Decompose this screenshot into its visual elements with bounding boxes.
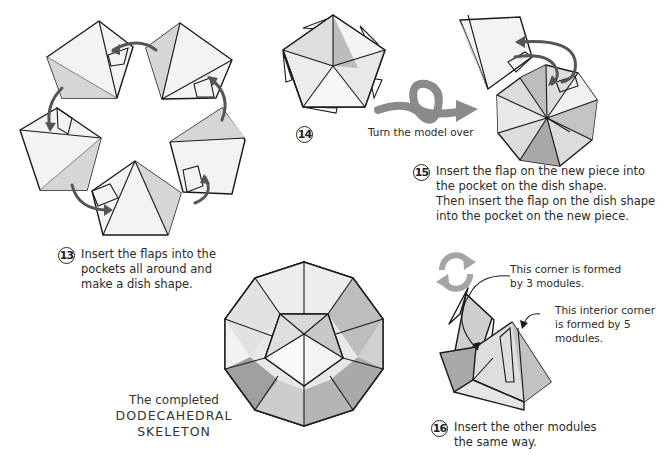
corner-3-note: This corner is formed by 3 modules.: [510, 262, 621, 290]
caption-title: SKELETON: [110, 424, 238, 440]
step15-instruction: 15 Insert the flap on the new piece into…: [413, 164, 655, 224]
step16-module-diagram: [440, 282, 580, 412]
note-line: modules.: [555, 331, 655, 345]
step14-pentagon-diagram: [270, 0, 390, 120]
step-number: 13: [58, 247, 75, 264]
text-line: make a dish shape.: [81, 277, 216, 292]
completed-skeleton-diagram: [218, 262, 398, 442]
step-number: 15: [413, 164, 430, 181]
turn-over-label: Turn the model over: [368, 125, 474, 139]
module-top-left: [47, 21, 133, 98]
text-line: Insert the other modules: [454, 420, 597, 435]
corner-5-note: This interior corner is formed by 5 modu…: [555, 303, 655, 345]
step13-instruction: 13 Insert the flaps into the pockets all…: [58, 247, 216, 292]
text-line: the pocket on the dish shape.: [436, 179, 655, 194]
text-line: pockets all around and: [81, 262, 216, 277]
text-line: Then insert the flap on the dish shape: [436, 194, 655, 209]
text-line: Insert the flap on the new piece into: [436, 164, 655, 179]
note-line: by 3 modules.: [510, 276, 621, 290]
module-left: [20, 108, 101, 190]
note-line: is formed by 5: [555, 317, 655, 331]
caption-title: DODECAHEDRAL: [110, 408, 238, 424]
text-line: into the pocket on the new piece.: [436, 209, 655, 224]
step14-label: 14: [296, 123, 319, 143]
step-number: 16: [431, 420, 448, 437]
text-line: the same way.: [454, 435, 597, 450]
caption-line: The completed: [110, 392, 238, 408]
step16-instruction: 16 Insert the other modules the same way…: [431, 420, 597, 450]
step15-insert-diagram: [460, 0, 660, 170]
text-line: Insert the flaps into the: [81, 247, 216, 262]
note-line: This corner is formed: [510, 262, 621, 276]
step-number: 14: [296, 126, 313, 143]
step13-ring-diagram: [0, 0, 240, 240]
note-line: This interior corner: [555, 303, 655, 317]
completed-caption: The completed DODECAHEDRAL SKELETON: [110, 392, 238, 440]
module-bottom: [92, 161, 181, 235]
